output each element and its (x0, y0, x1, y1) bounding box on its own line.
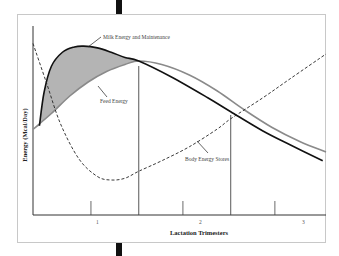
arrow-body-energy (197, 141, 208, 153)
x-tick-label-1: 1 (96, 219, 99, 225)
y-axis-label: Energy (Mcal/Day) (21, 108, 29, 161)
x-tick-label-2: 2 (199, 219, 202, 225)
annotation-body-energy: Body Energy Stores (185, 156, 229, 162)
arrow-milk-energy (88, 37, 101, 47)
x-axis-label: Lactation Trimesters (170, 229, 229, 236)
lactation-energy-chart: Lactation Trimesters Energy (Mcal/Day) M… (0, 0, 339, 256)
annotation-feed-energy: Feed Energy (100, 98, 128, 104)
annotation-milk-energy: Milk Energy and Maintenance (103, 34, 171, 40)
arrow-feed-energy (98, 86, 107, 97)
x-tick-label-3: 3 (302, 219, 305, 225)
